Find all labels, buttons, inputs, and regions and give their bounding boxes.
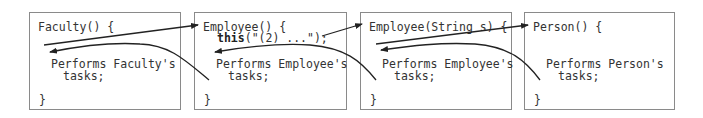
employee-noarg-body-line2: tasks;	[228, 70, 270, 83]
employee-string-close-brace: }	[370, 94, 377, 107]
person-close-brace: }	[534, 94, 541, 107]
employee-noarg-close-brace: }	[204, 94, 211, 107]
this-call-line: this("(2) ...");	[217, 32, 328, 45]
faculty-close-brace: }	[39, 94, 46, 107]
faculty-header: Faculty() {	[38, 21, 114, 34]
employee-noarg-constructor-box: Employee() { this("(2) ..."); Performs E…	[194, 12, 347, 110]
employee-string-header: Employee(String s) {	[369, 21, 507, 34]
this-call-args: ("(2) ...");	[245, 31, 328, 45]
person-header: Person() {	[533, 21, 602, 34]
this-keyword: this	[217, 31, 245, 45]
person-constructor-box: Person() { Performs Person's tasks; }	[524, 12, 675, 110]
faculty-constructor-box: Faculty() { Performs Faculty's tasks; }	[29, 12, 181, 110]
faculty-body-line2: tasks;	[63, 70, 105, 83]
employee-string-body-line2: tasks;	[394, 70, 436, 83]
person-body-line2: tasks;	[558, 70, 600, 83]
employee-string-constructor-box: Employee(String s) { Performs Employee's…	[360, 12, 512, 110]
